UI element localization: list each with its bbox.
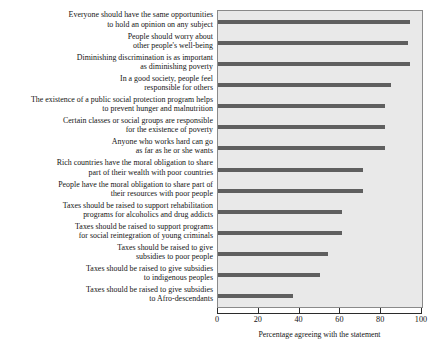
- bar: [218, 62, 410, 66]
- category-label-line: to indigenous peoples: [0, 273, 213, 282]
- bar: [218, 231, 342, 235]
- category-label-line: to Afro-descendants: [0, 294, 213, 303]
- category-label-line: to hold an opinion on any subject: [0, 20, 213, 29]
- bar: [218, 146, 385, 150]
- bar: [218, 252, 328, 256]
- bar: [218, 273, 320, 277]
- category-label-line: People have the moral obligation to shar…: [0, 180, 213, 189]
- bar: [218, 210, 342, 214]
- category-label-line: Anyone who works hard can go: [0, 137, 213, 146]
- x-axis-title: Percentage agreeing with the statement: [217, 330, 422, 339]
- category-label: Rich countries have the moral obligation…: [0, 158, 213, 176]
- bar: [218, 168, 363, 172]
- category-label-line: to prevent hunger and malnutrition: [0, 104, 213, 113]
- bar: [218, 294, 293, 298]
- category-label-line: as far as he or she wants: [0, 146, 213, 155]
- category-label-line: their resources with poor people: [0, 189, 213, 198]
- x-axis-line: [217, 313, 422, 314]
- category-label-line: other people's well-being: [0, 41, 213, 50]
- category-label: Taxes should be raised to support progra…: [0, 222, 213, 240]
- category-label-line: Taxes should be raised to support rehabi…: [0, 201, 213, 210]
- category-label: Taxes should be raised to support rehabi…: [0, 201, 213, 219]
- category-label-line: Diminishing discrimination is as importa…: [0, 53, 213, 62]
- category-label-line: Taxes should be raised to give subsidies: [0, 285, 213, 294]
- category-label: Everyone should have the same opportunit…: [0, 10, 213, 28]
- category-label-line: subsidies to poor people: [0, 252, 213, 261]
- category-label: The existence of a public social protect…: [0, 95, 213, 113]
- category-label-line: Taxes should be raised to support progra…: [0, 222, 213, 231]
- x-axis-tick-label: 60: [324, 315, 354, 324]
- category-label: People should worry aboutother people's …: [0, 32, 213, 50]
- x-axis-tick: [380, 308, 381, 313]
- x-axis-tick-label: 80: [365, 315, 395, 324]
- plot-area: [217, 10, 423, 308]
- category-label-line: Taxes should be raised to give: [0, 243, 213, 252]
- category-label: Taxes should be raised to givesubsidies …: [0, 243, 213, 261]
- category-label-line: programs for alcoholics and drug addicts: [0, 210, 213, 219]
- category-label-line: Taxes should be raised to give subsidies: [0, 264, 213, 273]
- category-label-line: The existence of a public social protect…: [0, 95, 213, 104]
- x-axis-tick-label: 40: [284, 315, 314, 324]
- x-axis-tick: [339, 308, 340, 313]
- x-axis-tick-label: 20: [243, 315, 273, 324]
- category-label: Taxes should be raised to give subsidies…: [0, 264, 213, 282]
- category-label-line: People should worry about: [0, 32, 213, 41]
- category-label: People have the moral obligation to shar…: [0, 180, 213, 198]
- x-axis-tick: [258, 308, 259, 313]
- bar: [218, 125, 385, 129]
- bar: [218, 104, 385, 108]
- category-label: Diminishing discrimination is as importa…: [0, 53, 213, 71]
- bar: [218, 20, 410, 24]
- bar: [218, 189, 363, 193]
- category-label-line: Everyone should have the same opportunit…: [0, 10, 213, 19]
- category-label-line: for the existence of poverty: [0, 125, 213, 134]
- x-axis-tick-label: 0: [202, 315, 232, 324]
- category-label-line: Rich countries have the moral obligation…: [0, 158, 213, 167]
- category-label-line: for social reintegration of young crimin…: [0, 231, 213, 240]
- category-label: Anyone who works hard can goas far as he…: [0, 137, 213, 155]
- category-label-line: part of their wealth with poor countries: [0, 168, 213, 177]
- category-label: In a good society, people feelresponsibl…: [0, 74, 213, 92]
- category-label-line: responsible for others: [0, 83, 213, 92]
- category-labels-column: Everyone should have the same opportunit…: [0, 10, 215, 306]
- category-label: Certain classes or social groups are res…: [0, 116, 213, 134]
- category-label-line: as diminishing poverty: [0, 62, 213, 71]
- category-label-line: In a good society, people feel: [0, 74, 213, 83]
- category-label: Taxes should be raised to give subsidies…: [0, 285, 213, 303]
- bar: [218, 83, 391, 87]
- x-axis-tick: [421, 308, 422, 313]
- bar: [218, 41, 408, 45]
- category-label-line: Certain classes or social groups are res…: [0, 116, 213, 125]
- x-axis-tick-label: 100: [406, 315, 436, 324]
- x-axis-tick: [299, 308, 300, 313]
- x-axis-tick: [217, 308, 218, 313]
- horizontal-bar-chart: Everyone should have the same opportunit…: [0, 0, 438, 351]
